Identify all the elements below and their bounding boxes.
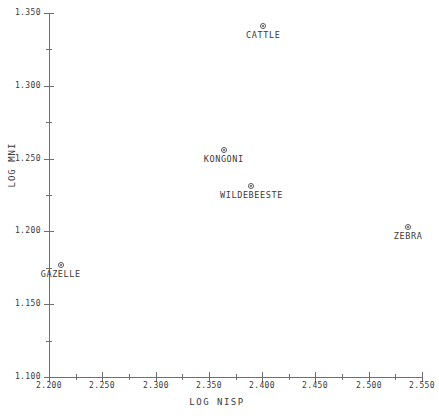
y-tick-minor: [46, 195, 52, 196]
circle-dot-marker-icon: [260, 23, 266, 29]
data-point-label: CATTLE: [203, 31, 323, 40]
y-tick-label: 1.350: [0, 9, 41, 17]
y-tick-label: 1.150: [0, 300, 41, 308]
x-tick-label: 2.400: [232, 382, 292, 390]
circle-dot-marker-icon: [221, 147, 227, 153]
y-tick-minor: [46, 122, 52, 123]
x-tick-label: 2.200: [19, 382, 79, 390]
circle-dot-marker-icon: [58, 262, 64, 268]
x-tick-minor: [236, 374, 237, 380]
x-tick-minor: [129, 374, 130, 380]
y-tick-major: [44, 13, 54, 14]
y-tick-major: [44, 231, 54, 232]
x-tick-label: 2.550: [392, 382, 439, 390]
circle-dot-marker-icon: [248, 183, 254, 189]
y-tick-label: 1.300: [0, 82, 41, 90]
x-tick-label: 2.450: [285, 382, 345, 390]
x-tick-minor: [76, 374, 77, 380]
y-tick-label: 1.200: [0, 227, 41, 235]
y-axis-title: LOG MNI: [7, 135, 17, 195]
data-point-label: KONGONI: [164, 155, 284, 164]
data-point-label: WILDEBEESTE: [191, 191, 311, 200]
x-tick-label: 2.500: [339, 382, 399, 390]
x-axis-title: LOG NISP: [0, 397, 434, 407]
y-tick-minor: [46, 341, 52, 342]
y-tick-major: [44, 304, 54, 305]
x-tick-minor: [342, 374, 343, 380]
data-point-label: ZEBRA: [348, 232, 439, 241]
x-tick-minor: [289, 374, 290, 380]
x-tick-label: 2.350: [179, 382, 239, 390]
circle-dot-marker-icon: [405, 224, 411, 230]
x-tick-label: 2.300: [126, 382, 186, 390]
y-tick-label: 1.100: [0, 373, 41, 381]
y-tick-major: [44, 159, 54, 160]
y-tick-major: [44, 86, 54, 87]
x-tick-label: 2.250: [72, 382, 132, 390]
x-tick-minor: [182, 374, 183, 380]
data-point-label: GAZELLE: [1, 270, 121, 279]
y-tick-minor: [46, 49, 52, 50]
x-tick-minor: [395, 374, 396, 380]
